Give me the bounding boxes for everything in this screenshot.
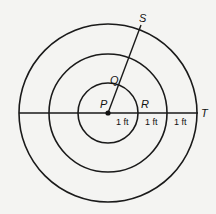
concentric-circles-diagram: S Q P R T 1 ft 1 ft 1 ft	[0, 0, 216, 214]
radius-ps	[108, 25, 141, 113]
label-q: Q	[110, 74, 119, 86]
label-p: P	[100, 98, 108, 110]
center-point-p	[105, 110, 110, 115]
label-s: S	[139, 12, 147, 24]
segment-label-1: 1 ft	[116, 117, 129, 127]
segment-label-3: 1 ft	[174, 117, 187, 127]
label-t: T	[201, 107, 209, 119]
segment-label-2: 1 ft	[145, 117, 158, 127]
label-r: R	[141, 98, 149, 110]
